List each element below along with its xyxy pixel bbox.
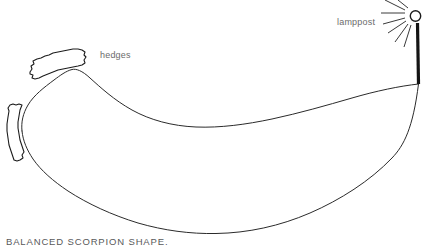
hedges-label: hedges <box>100 50 131 60</box>
sketch-canvas: hedges lamppost BALANCED SCORPION SHAPE. <box>0 0 431 249</box>
lamppost-label: lamppost <box>337 17 375 27</box>
scorpion-shape-drawing <box>0 0 431 249</box>
lamp-post <box>418 23 419 84</box>
caption: BALANCED SCORPION SHAPE. <box>6 236 168 247</box>
hedge-lower <box>7 104 24 161</box>
hedge-upper <box>30 49 86 79</box>
lower-sweep-curve <box>22 84 419 234</box>
lamp-ray-2 <box>385 0 405 10</box>
lamp-bulb <box>410 11 420 21</box>
lamp-ray-4 <box>383 18 405 24</box>
upper-sweep-curve <box>22 69 419 131</box>
